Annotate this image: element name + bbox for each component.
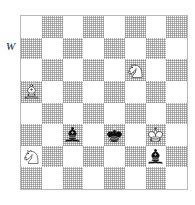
board-square-r3-c7[interactable] (166, 81, 187, 103)
board-square-r1-c2[interactable] (63, 38, 84, 60)
board-square-r7-c7[interactable] (166, 167, 187, 189)
board-square-r4-c2[interactable] (63, 103, 84, 125)
board-square-r5-c3[interactable] (83, 124, 104, 146)
side-to-move-label: W (6, 40, 15, 52)
board-square-r3-c5[interactable] (125, 81, 146, 103)
board-square-r5-c5[interactable] (125, 124, 146, 146)
board-square-r6-c6[interactable] (146, 146, 167, 168)
board-square-r1-c1[interactable] (42, 38, 63, 60)
board-square-r0-c2[interactable] (63, 16, 84, 38)
board-square-r0-c6[interactable] (146, 16, 167, 38)
board-square-r2-c3[interactable] (83, 59, 104, 81)
board-square-r4-c3[interactable] (83, 103, 104, 125)
board-square-r4-c6[interactable] (146, 103, 167, 125)
board-square-r5-c4[interactable] (104, 124, 125, 146)
board-square-r2-c1[interactable] (42, 59, 63, 81)
board-square-r2-c0[interactable] (21, 59, 42, 81)
board-square-r0-c3[interactable] (83, 16, 104, 38)
board-square-r7-c1[interactable] (42, 167, 63, 189)
board-square-r4-c1[interactable] (42, 103, 63, 125)
board-square-r2-c5[interactable] (125, 59, 146, 81)
board-square-r1-c3[interactable] (83, 38, 104, 60)
chess-board (20, 15, 188, 190)
board-square-r7-c0[interactable] (21, 167, 42, 189)
board-square-r5-c6[interactable] (146, 124, 167, 146)
board-square-r0-c1[interactable] (42, 16, 63, 38)
board-square-r0-c4[interactable] (104, 16, 125, 38)
board-square-r6-c7[interactable] (166, 146, 187, 168)
board-square-r1-c6[interactable] (146, 38, 167, 60)
board-square-r3-c6[interactable] (146, 81, 167, 103)
board-square-r1-c7[interactable] (166, 38, 187, 60)
board-square-r7-c5[interactable] (125, 167, 146, 189)
board-square-r3-c0[interactable] (21, 81, 42, 103)
board-square-r6-c5[interactable] (125, 146, 146, 168)
board-square-r6-c4[interactable] (104, 146, 125, 168)
board-square-r5-c1[interactable] (42, 124, 63, 146)
board-square-r2-c2[interactable] (63, 59, 84, 81)
board-square-r4-c0[interactable] (21, 103, 42, 125)
board-square-r3-c3[interactable] (83, 81, 104, 103)
chess-board-grid (21, 16, 187, 189)
board-square-r0-c7[interactable] (166, 16, 187, 38)
board-square-r3-c2[interactable] (63, 81, 84, 103)
board-square-r7-c6[interactable] (146, 167, 167, 189)
board-square-r7-c3[interactable] (83, 167, 104, 189)
board-square-r4-c4[interactable] (104, 103, 125, 125)
board-square-r6-c0[interactable] (21, 146, 42, 168)
board-square-r6-c3[interactable] (83, 146, 104, 168)
board-square-r4-c7[interactable] (166, 103, 187, 125)
board-square-r6-c1[interactable] (42, 146, 63, 168)
board-square-r5-c2[interactable] (63, 124, 84, 146)
board-square-r3-c4[interactable] (104, 81, 125, 103)
board-square-r5-c0[interactable] (21, 124, 42, 146)
board-square-r5-c7[interactable] (166, 124, 187, 146)
board-square-r1-c5[interactable] (125, 38, 146, 60)
board-square-r2-c7[interactable] (166, 59, 187, 81)
board-square-r6-c2[interactable] (63, 146, 84, 168)
board-square-r3-c1[interactable] (42, 81, 63, 103)
board-square-r2-c6[interactable] (146, 59, 167, 81)
board-square-r0-c5[interactable] (125, 16, 146, 38)
board-square-r7-c4[interactable] (104, 167, 125, 189)
board-square-r4-c5[interactable] (125, 103, 146, 125)
board-square-r2-c4[interactable] (104, 59, 125, 81)
board-square-r0-c0[interactable] (21, 16, 42, 38)
board-square-r1-c4[interactable] (104, 38, 125, 60)
board-square-r1-c0[interactable] (21, 38, 42, 60)
board-square-r7-c2[interactable] (63, 167, 84, 189)
